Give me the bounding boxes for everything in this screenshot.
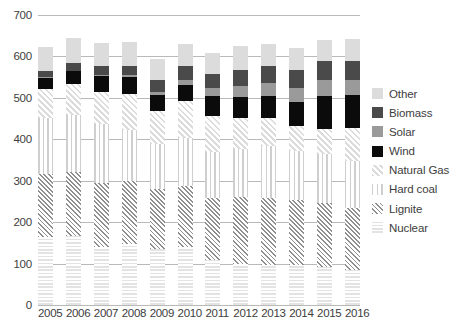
bar-segment-nuclear-2012 bbox=[233, 264, 248, 305]
bar-segment-gas-2007 bbox=[94, 92, 109, 123]
bar-segment-other-2016 bbox=[345, 39, 360, 61]
x-axis-tick-label: 2005 bbox=[38, 307, 62, 319]
bar-segment-hardcoal-2007 bbox=[94, 124, 109, 183]
bar-segment-lignite-2015 bbox=[317, 203, 332, 267]
bar-segment-nuclear-2015 bbox=[317, 267, 332, 305]
x-axis-tick-2008: 2008 bbox=[122, 307, 137, 319]
x-axis-tick-label: 2006 bbox=[66, 307, 90, 319]
bar-segment-gas-2015 bbox=[317, 129, 332, 155]
bar-segment-solar-2014 bbox=[289, 88, 304, 103]
bar-segment-other-2013 bbox=[261, 44, 276, 67]
bar-segment-other-2009 bbox=[150, 59, 165, 80]
bar-segment-gas-2012 bbox=[233, 118, 248, 149]
bar-segment-biomass-2015 bbox=[317, 61, 332, 80]
x-axis-tick-2005: 2005 bbox=[38, 307, 53, 319]
y-axis-tick-700: 700 bbox=[13, 9, 32, 21]
bar-segment-nuclear-2005 bbox=[38, 237, 53, 305]
bar-segment-solar-2011 bbox=[205, 88, 220, 96]
legend-item-nuclear[interactable]: Nuclear bbox=[372, 222, 449, 233]
bar-segment-biomass-2011 bbox=[205, 74, 220, 88]
bar-segment-other-2014 bbox=[289, 48, 304, 70]
legend-label: Natural Gas bbox=[389, 164, 449, 176]
x-axis: 2005200620072008200920102011201220132014… bbox=[38, 307, 360, 319]
y-axis-tick-400: 400 bbox=[13, 133, 32, 145]
x-axis-tick-label: 2009 bbox=[150, 307, 174, 319]
bar-segment-lignite-2009 bbox=[150, 189, 165, 249]
bar-segment-biomass-2008 bbox=[122, 66, 137, 75]
x-axis-tick-label: 2016 bbox=[345, 307, 369, 319]
bar-segment-nuclear-2016 bbox=[345, 270, 360, 305]
x-axis-tick-2006: 2006 bbox=[66, 307, 81, 319]
y-axis-tick-0: 0 bbox=[26, 299, 32, 311]
legend-label: Biomass bbox=[389, 107, 432, 119]
legend-label: Other bbox=[389, 88, 417, 100]
bar-segment-lignite-2014 bbox=[289, 200, 304, 265]
x-axis-tick-label: 2007 bbox=[94, 307, 118, 319]
legend-item-other[interactable]: Other bbox=[372, 88, 449, 99]
bar-segment-solar-2012 bbox=[233, 86, 248, 97]
bar-segment-gas-2005 bbox=[38, 89, 53, 118]
bar-2009 bbox=[150, 15, 165, 305]
bar-2015 bbox=[317, 15, 332, 305]
bar-2006 bbox=[66, 15, 81, 305]
legend-item-biomass[interactable]: Biomass bbox=[372, 107, 449, 118]
legend-swatch-lignite-icon bbox=[372, 203, 383, 214]
bar-segment-solar-2015 bbox=[317, 80, 332, 96]
legend-item-gas[interactable]: Natural Gas bbox=[372, 165, 449, 176]
bar-segment-biomass-2007 bbox=[94, 66, 109, 75]
bar-segment-nuclear-2014 bbox=[289, 265, 304, 305]
bar-segment-hardcoal-2012 bbox=[233, 149, 248, 197]
bar-2007 bbox=[94, 15, 109, 305]
legend-label: Nuclear bbox=[389, 222, 428, 234]
bar-segment-wind-2012 bbox=[233, 97, 248, 118]
bar-segment-biomass-2014 bbox=[289, 70, 304, 88]
legend-swatch-other-icon bbox=[372, 88, 383, 99]
x-axis-tick-label: 2011 bbox=[205, 307, 229, 319]
y-axis-tick-600: 600 bbox=[13, 50, 32, 62]
stacked-bar-chart: 0100200300400500600700 20052006200720082… bbox=[0, 0, 451, 336]
legend-item-solar[interactable]: Solar bbox=[372, 126, 449, 137]
bar-segment-wind-2009 bbox=[150, 95, 165, 111]
legend-swatch-wind-icon bbox=[372, 146, 383, 157]
bar-segment-other-2012 bbox=[233, 46, 248, 70]
bar-segment-wind-2014 bbox=[289, 102, 304, 126]
legend-item-wind[interactable]: Wind bbox=[372, 146, 449, 157]
x-axis-tick-2009: 2009 bbox=[150, 307, 165, 319]
bar-segment-hardcoal-2009 bbox=[150, 144, 165, 188]
bar-segment-biomass-2009 bbox=[150, 80, 165, 92]
bar-segment-lignite-2008 bbox=[122, 181, 137, 244]
bar-segment-lignite-2010 bbox=[178, 186, 193, 246]
bar-segment-hardcoal-2008 bbox=[122, 130, 137, 181]
bar-segment-wind-2011 bbox=[205, 96, 220, 116]
bar-2005 bbox=[38, 15, 53, 305]
bar-2014 bbox=[289, 15, 304, 305]
bar-segment-lignite-2012 bbox=[233, 197, 248, 264]
bar-segment-solar-2013 bbox=[261, 83, 276, 96]
bar-segment-solar-2016 bbox=[345, 80, 360, 96]
bar-segment-biomass-2010 bbox=[178, 66, 193, 80]
legend-label: Wind bbox=[389, 145, 415, 157]
bar-segment-other-2007 bbox=[94, 43, 109, 65]
x-axis-tick-label: 2010 bbox=[178, 307, 202, 319]
bar-segment-gas-2013 bbox=[261, 118, 276, 146]
x-axis-tick-2014: 2014 bbox=[289, 307, 304, 319]
y-axis-tick-500: 500 bbox=[13, 92, 32, 104]
bar-segment-nuclear-2010 bbox=[178, 247, 193, 305]
bar-segment-biomass-2016 bbox=[345, 61, 360, 80]
bar-segment-wind-2006 bbox=[66, 71, 81, 84]
bar-segment-wind-2015 bbox=[317, 96, 332, 129]
legend-swatch-hardcoal-icon bbox=[372, 184, 383, 195]
chart-legend: OtherBiomassSolarWindNatural GasHard coa… bbox=[372, 88, 449, 233]
legend-swatch-nuclear-icon bbox=[372, 222, 383, 233]
bar-segment-hardcoal-2016 bbox=[345, 161, 360, 207]
bar-segment-lignite-2013 bbox=[261, 198, 276, 265]
legend-item-lignite[interactable]: Lignite bbox=[372, 203, 449, 214]
bar-segment-gas-2006 bbox=[66, 84, 81, 115]
x-axis-tick-2010: 2010 bbox=[178, 307, 193, 319]
bar-segment-wind-2005 bbox=[38, 78, 53, 89]
bar-segment-hardcoal-2011 bbox=[205, 152, 220, 198]
bar-segment-nuclear-2008 bbox=[122, 244, 137, 305]
legend-item-hardcoal[interactable]: Hard coal bbox=[372, 184, 449, 195]
bar-segment-wind-2013 bbox=[261, 96, 276, 118]
bar-2013 bbox=[261, 15, 276, 305]
